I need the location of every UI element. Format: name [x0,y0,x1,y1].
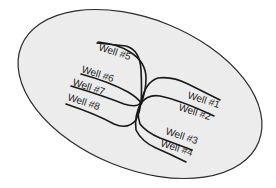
diagram-canvas: Well #5 Well #6 Well #7 Well #8 Well #1 … [0,0,276,188]
pad-center [139,101,142,104]
field-boundary [0,0,276,188]
well-field-diagram: Well #5 Well #6 Well #7 Well #8 Well #1 … [0,0,276,188]
